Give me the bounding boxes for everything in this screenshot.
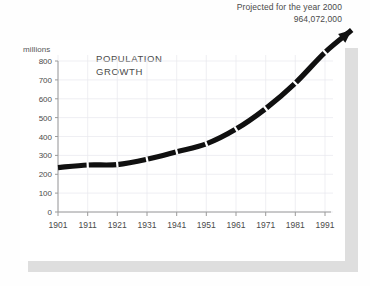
svg-text:100: 100 — [39, 189, 53, 198]
svg-text:1991: 1991 — [316, 220, 335, 230]
svg-text:700: 700 — [39, 76, 53, 85]
y-axis-labels: 8007006005004003002001000 — [39, 57, 53, 217]
chart-screenshot: Projected for the year 2000 964,072,000 … — [0, 0, 370, 286]
svg-text:800: 800 — [39, 57, 53, 66]
svg-text:500: 500 — [39, 114, 53, 123]
svg-text:1921: 1921 — [108, 220, 127, 230]
svg-text:0: 0 — [48, 208, 53, 217]
svg-text:1961: 1961 — [227, 220, 246, 230]
svg-text:1911: 1911 — [79, 220, 98, 230]
data-point-markers — [86, 49, 327, 168]
svg-text:200: 200 — [39, 170, 53, 179]
svg-text:400: 400 — [39, 133, 53, 142]
plot-area: 8007006005004003002001000 19011911192119… — [0, 0, 370, 286]
svg-text:1931: 1931 — [138, 220, 157, 230]
x-axis-ticks — [58, 212, 325, 216]
x-axis-labels: 1901191119211931194119511961197119811991 — [49, 220, 335, 230]
svg-text:1951: 1951 — [197, 220, 216, 230]
svg-text:600: 600 — [39, 95, 53, 104]
svg-text:1971: 1971 — [256, 220, 275, 230]
svg-text:1941: 1941 — [167, 220, 186, 230]
gridlines — [58, 55, 333, 212]
svg-text:1981: 1981 — [286, 220, 305, 230]
svg-text:1901: 1901 — [49, 220, 68, 230]
svg-text:300: 300 — [39, 151, 53, 160]
